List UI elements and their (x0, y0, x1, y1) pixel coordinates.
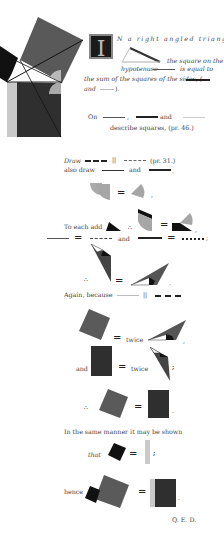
triangle-wide-icon (131, 263, 171, 287)
line-light (183, 117, 205, 118)
line-dotted-light (124, 160, 146, 161)
parallel-sign-2: || (143, 291, 147, 299)
and-1: and (129, 166, 141, 174)
period-3: . (172, 407, 174, 415)
equals-3: = (74, 233, 82, 241)
equals-8: = (134, 402, 142, 410)
comma-3: , (183, 337, 185, 345)
right-triangle-icon (120, 46, 162, 64)
intro-line-2: the square on the (167, 57, 223, 65)
to-each-add: To each add (64, 223, 102, 231)
intro-line-4: the sum of the squares of the sides, ( (84, 75, 202, 83)
intro-line-5a: and (84, 85, 96, 93)
describe-squares: describe squares, (pr. 46.) (110, 124, 194, 132)
also-draw: also draw (64, 166, 95, 174)
line-b (149, 169, 171, 171)
twice-1: twice (126, 336, 143, 344)
semicolon-1: ; (206, 234, 208, 242)
semicolon-2: ; (172, 363, 174, 371)
that-label: that (88, 451, 101, 459)
square-rotated-icon (79, 309, 111, 341)
hypotenuse-line (153, 69, 175, 70)
same-manner: In the same manner it may be shown (64, 428, 182, 436)
square-rotated-icon-2 (99, 389, 129, 419)
comma-1: , (151, 191, 153, 199)
black-square-icon (108, 443, 126, 461)
equals-7: = (118, 362, 126, 370)
rectangle-dark-icon-3 (155, 479, 176, 507)
drop-cap: I (89, 34, 113, 59)
twice-2: twice (131, 365, 148, 373)
and-3: and (76, 365, 88, 373)
pr31: (pr. 31.) (150, 157, 175, 165)
therefore-3: ∴ (84, 403, 88, 411)
and-label: and (160, 113, 172, 121)
period-4: . (178, 494, 180, 502)
line-hypotenuse (103, 117, 125, 118)
side-line-light (100, 89, 114, 90)
compound-angle-right (172, 213, 194, 233)
and-2: and (118, 235, 130, 243)
rectangle-dark-icon-2 (148, 390, 169, 418)
parallel-sign: || (112, 156, 116, 164)
angle-right-icon (131, 184, 147, 200)
line-dotted-dark (85, 160, 107, 162)
draw-label: Draw (64, 157, 81, 165)
semicolon-3: ; (153, 449, 155, 457)
intro-line-3b: is equal to (180, 65, 213, 73)
small-triangle-icon (106, 222, 122, 231)
equals-9: = (129, 449, 137, 457)
period-2: . (169, 279, 171, 287)
equals-4: = (167, 233, 175, 241)
equals-1: = (117, 188, 125, 196)
line-d (90, 238, 112, 239)
intro-line-5b: ). (115, 85, 119, 93)
again-because: Again, because (64, 291, 112, 299)
equals-10: = (138, 487, 146, 495)
compound-angle-left (138, 209, 156, 233)
line-e (138, 237, 162, 239)
therefore-1: ∴ (128, 223, 132, 231)
comma: , (127, 113, 129, 121)
rectangle-dark-icon (91, 346, 112, 376)
line-h (155, 295, 181, 297)
period-1: . (172, 167, 174, 175)
triangle-tall-icon (91, 244, 113, 284)
intro-line-1: N a right angled triangle (117, 35, 224, 43)
comma-2: , (195, 226, 197, 234)
hence-label: hence (64, 488, 83, 496)
equals-2: = (160, 220, 168, 228)
pale-strip-icon (145, 440, 150, 464)
line-f (182, 238, 204, 240)
equals-6: = (113, 333, 121, 341)
line-a (102, 170, 124, 171)
two-squares-icon (84, 475, 132, 509)
therefore-2: ∴ (84, 275, 88, 283)
triangle-wide-icon-2 (148, 320, 188, 342)
equals-5: = (115, 276, 123, 284)
line-dark (136, 116, 158, 118)
triangle-tall-icon-2 (150, 347, 172, 383)
on-label: On (88, 113, 97, 121)
drop-cap-letter: I (89, 34, 113, 59)
angle-left-icon (96, 184, 112, 202)
side-line-dark (186, 79, 210, 81)
line-c (47, 238, 69, 239)
qed: Q. E. D. (172, 516, 196, 524)
line-g (117, 295, 139, 296)
